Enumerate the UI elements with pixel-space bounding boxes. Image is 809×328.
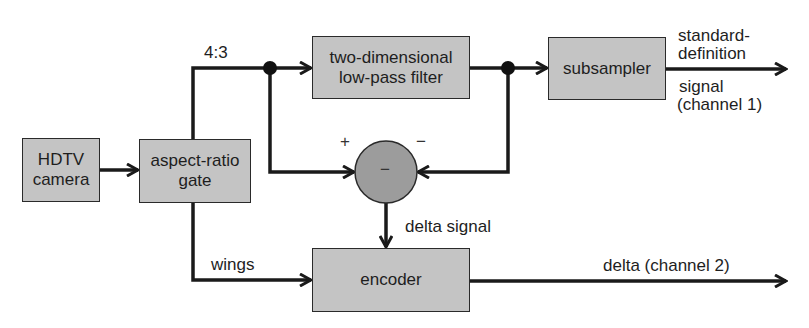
block-encoder: encoder [312,248,470,312]
label-sd-line4: (channel 1) [677,95,762,115]
block-hdtv-camera: HDTV camera [22,138,100,202]
label-aspect-4-3: 4:3 [204,43,228,63]
block-label: two-dimensional [330,48,453,68]
block-aspect-ratio-gate: aspect-ratio gate [139,139,251,203]
label-delta-signal: delta signal [405,217,491,237]
label-sd-line2: definition [678,44,746,64]
block-low-pass-filter: two-dimensional low-pass filter [312,36,470,99]
minus-sign: − [416,132,426,152]
label-sd-line1: standard- [678,26,750,46]
block-label: gate [178,171,211,191]
block-subsampler: subsampler [548,37,666,100]
block-label: HDTV [38,150,84,170]
label-wings: wings [211,255,254,275]
subtractor-symbol: − [380,160,390,180]
label-sd-line3: signal [679,77,723,97]
block-label: camera [33,170,90,190]
arrow-gate-to-lpf [193,68,311,139]
block-label: encoder [360,270,421,290]
block-label: aspect-ratio [151,151,240,171]
junction-dot-4-3 [263,61,277,75]
block-label: subsampler [563,59,651,79]
junction-dot-filter-out [501,61,515,75]
label-delta-channel-2: delta (channel 2) [603,256,730,276]
plus-sign: + [340,132,350,152]
block-label: low-pass filter [339,68,443,88]
